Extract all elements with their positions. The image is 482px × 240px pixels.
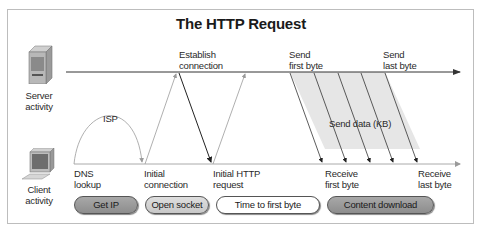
label-initial-connection: Initial connection <box>144 168 188 190</box>
label-send-last-byte: Send last byte <box>383 49 417 71</box>
phase-content-download: Content download <box>327 196 434 214</box>
label-initial-http-request: Initial HTTP request <box>213 168 260 190</box>
syn-ack-arrow <box>179 73 211 162</box>
http-request-arrow <box>213 74 245 164</box>
label-receive-first-byte: Receive first byte <box>325 168 359 190</box>
client-activity-label: Client activity <box>14 184 64 206</box>
label-dns-lookup: DNS lookup <box>74 168 101 190</box>
label-send-first-byte: Send first byte <box>289 49 323 71</box>
label-receive-last-byte: Receive last byte <box>418 168 452 190</box>
label-send-data: Send data (KB) <box>329 118 391 129</box>
phase-get-ip: Get IP <box>74 196 138 214</box>
phase-time-to-first-byte: Time to first byte <box>216 196 320 214</box>
label-establish-connection: Establish connection <box>179 49 223 71</box>
server-activity-label: Server activity <box>14 90 64 112</box>
server-icon <box>25 44 53 84</box>
phase-open-socket: Open socket <box>145 196 209 214</box>
computer-icon <box>20 148 58 183</box>
syn-arrow <box>145 74 176 164</box>
label-isp: ISP <box>103 113 118 124</box>
send-data-band <box>290 72 420 149</box>
